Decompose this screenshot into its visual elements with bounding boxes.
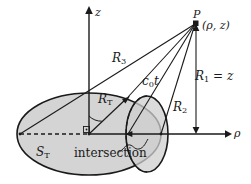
c0t-label-main: c: [142, 74, 149, 88]
R1-label-tail: = z: [209, 69, 233, 83]
RT-label-main: R: [98, 92, 107, 106]
z-axis-arrowhead: [85, 6, 93, 14]
ST-label-main: S: [36, 145, 44, 159]
ST-label: ST: [36, 146, 50, 159]
R2-label-sub: 2: [182, 105, 187, 115]
c0t-label: c0t: [142, 75, 159, 88]
RT-rim-to-P-segment: [128, 24, 195, 97]
rho-axis-label: ρ: [234, 128, 240, 139]
R3-label-sub: 3: [121, 56, 126, 66]
R2-segment: [161, 24, 195, 134]
z-axis-label: z: [95, 7, 101, 18]
point-P-coordinates-label: (ρ, z): [202, 20, 230, 31]
R2-label-main: R: [173, 100, 182, 114]
RT-label-sub: T: [107, 97, 112, 107]
R1-label-main: R: [195, 69, 204, 83]
point-P-marker: [193, 21, 199, 27]
intersection-label: intersection: [74, 147, 147, 159]
R2-label: R2: [173, 101, 187, 114]
ST-label-sub: T: [44, 150, 49, 160]
R1-bottom-arrowhead: [193, 127, 200, 134]
right-angle-dot: [86, 129, 88, 131]
disk-left-rim-dot: [19, 133, 22, 136]
point-P-label: P: [193, 9, 200, 20]
R3-label-main: R: [112, 51, 121, 65]
R3-label: R3: [112, 52, 126, 65]
R1-label: R1 = z: [195, 70, 233, 83]
physics-diagram-figure: z ρ P (ρ, z) R3 c0t R1 = z R2 RT ST inte…: [0, 0, 251, 184]
disk-right-rim-dot: [160, 133, 163, 136]
origin-dot: [88, 133, 91, 136]
RT-label: RT: [98, 93, 113, 106]
c0t-label-tail: t: [154, 74, 159, 88]
rho-axis-arrowhead: [225, 130, 232, 138]
